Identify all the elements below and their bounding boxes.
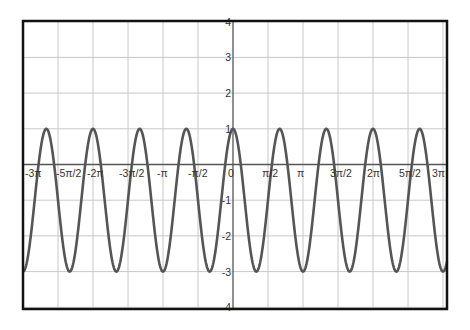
y-tick-label: -3: [222, 266, 231, 278]
y-tick-label: 2: [225, 87, 231, 99]
x-tick-label: -π/2: [188, 167, 208, 179]
y-tick-label: -4: [222, 301, 231, 313]
x-tick-label: -3π: [25, 167, 42, 179]
function-plot: -3π-5π/2-2π-3π/2-π-π/20π/2π3π/22π5π/23π …: [0, 0, 470, 330]
x-tick-label: 3π/2: [330, 167, 352, 179]
y-tick-label: 3: [225, 51, 231, 63]
x-tick-label: 0: [228, 167, 234, 179]
x-tick-label: 3π: [432, 167, 445, 179]
x-tick-label: 5π/2: [399, 167, 421, 179]
y-tick-label: 1: [225, 123, 231, 135]
x-tick-label: -5π/2: [56, 167, 81, 179]
x-tick-label: 2π: [367, 167, 380, 179]
y-tick-label: -1: [222, 194, 231, 206]
x-tick-label: -2π: [87, 167, 104, 179]
x-tick-label: π: [297, 167, 304, 179]
y-tick-label: -2: [222, 230, 231, 242]
x-tick-label: -π: [157, 167, 168, 179]
axes: [23, 21, 447, 309]
x-tick-label: π/2: [262, 167, 278, 179]
x-tick-label: -3π/2: [119, 167, 144, 179]
